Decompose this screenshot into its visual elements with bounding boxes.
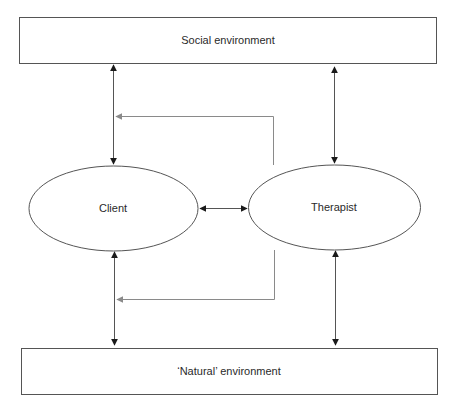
natural-environment-label: ‘Natural’ environment bbox=[177, 365, 281, 377]
social-environment-label: Social environment bbox=[181, 34, 275, 46]
therapist-node: Therapist bbox=[249, 165, 421, 250]
feedback-arrow-top bbox=[116, 117, 274, 166]
natural-environment-box: ‘Natural’ environment bbox=[22, 349, 438, 395]
client-label: Client bbox=[99, 202, 127, 214]
client-node: Client bbox=[29, 166, 198, 251]
therapist-label: Therapist bbox=[311, 201, 357, 213]
feedback-arrow-bottom bbox=[117, 250, 275, 300]
social-environment-box: Social environment bbox=[20, 18, 437, 64]
diagram-canvas: Social environment ‘Natural’ environment… bbox=[0, 0, 456, 413]
